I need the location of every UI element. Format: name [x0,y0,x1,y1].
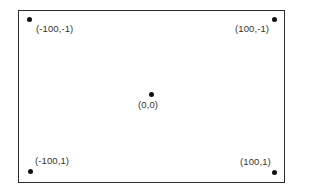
point-bottom-left-dot [28,169,33,174]
point-bottom-left-label: (-100,1) [35,155,69,166]
point-center-label: (0,0) [138,99,158,110]
point-bottom-right-dot [272,170,277,175]
point-center-dot [149,92,154,97]
point-top-right-label: (100,-1) [235,23,269,34]
point-bottom-right-label: (100,1) [240,156,271,167]
point-top-left-dot [27,17,32,22]
point-top-left-label: (-100,-1) [36,23,73,34]
point-top-right-dot [272,17,277,22]
